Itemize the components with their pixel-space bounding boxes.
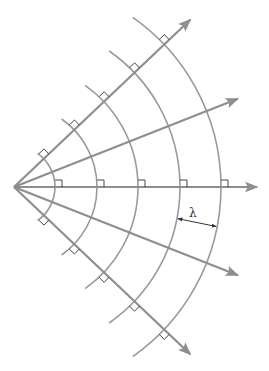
right-angle-mark xyxy=(99,277,109,282)
ray-arrow xyxy=(14,187,190,354)
wavefront-diagram: λ xyxy=(0,0,269,371)
right-angle-mark xyxy=(69,249,79,254)
right-angle-mark xyxy=(159,334,169,339)
right-angle-mark xyxy=(130,306,140,311)
right-angle-mark xyxy=(99,92,109,97)
rays xyxy=(14,20,257,355)
right-angle-mark xyxy=(130,63,140,68)
ray-arrow xyxy=(14,187,238,275)
right-angle-mark xyxy=(39,220,49,225)
wavelength-dimension xyxy=(178,219,216,227)
right-angle-mark xyxy=(69,120,79,125)
ray-arrow xyxy=(14,20,190,187)
ray-arrow xyxy=(14,99,238,187)
wavelength-dimension-arrow xyxy=(178,219,216,227)
wavelength-label: λ xyxy=(189,206,197,220)
right-angle-mark xyxy=(159,35,169,40)
right-angle-mark xyxy=(39,149,49,154)
